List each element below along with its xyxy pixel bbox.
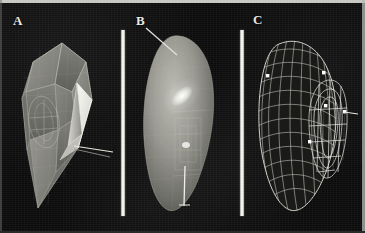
figure-border-top <box>0 0 365 3</box>
panel-label-a: A <box>13 13 22 29</box>
panel-label-b: B <box>136 13 145 29</box>
marker-point <box>266 74 269 77</box>
panel-c: C Wireframe quadrilateral mesh of the su… <box>246 0 365 233</box>
panel-a: A Flat-shaded polygonal (low-poly) surfa… <box>0 0 120 233</box>
panel-a-probe-line <box>74 146 113 157</box>
marker-point <box>308 140 311 143</box>
panel-b: B Smooth (Gouraud/Phong) shaded renderin… <box>128 0 240 233</box>
figure-border-bottom <box>0 231 365 233</box>
marker-point <box>322 71 325 74</box>
panel-b-smooth-shaded-render <box>128 0 240 233</box>
panel-c-wireframe-render <box>246 0 365 233</box>
marker-point <box>324 104 327 107</box>
figure-container: A Flat-shaded polygonal (low-poly) surfa… <box>0 0 365 233</box>
panel-b-body-surface <box>144 36 214 211</box>
panel-label-c: C <box>253 12 262 28</box>
panel-divider-1 <box>121 30 125 216</box>
panel-b-secondary-highlight <box>182 142 190 148</box>
figure-border-left <box>0 0 2 233</box>
panel-a-polygon-mesh-render <box>0 0 120 233</box>
panel-divider-2 <box>240 30 244 216</box>
